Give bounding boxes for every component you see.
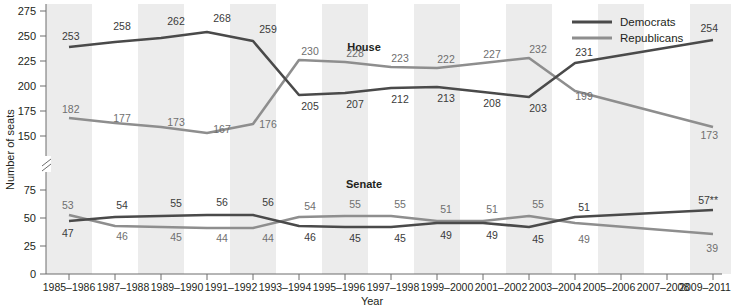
band-6 xyxy=(598,4,644,274)
house-rep-label-12: 173 xyxy=(700,129,718,141)
senate-rep-label-5: 54 xyxy=(304,200,316,212)
house-dem-label-0: 253 xyxy=(62,30,80,42)
house-rep-label-5: 230 xyxy=(301,45,319,57)
xtick-label-7: 1999–2000 xyxy=(421,281,474,293)
senate-rep-label-12: 39 xyxy=(706,242,718,254)
ytick-label-200: 200 xyxy=(18,80,36,92)
senate-dem-label-3: 56 xyxy=(216,196,228,208)
xtick-label-12: 2009–2011 xyxy=(679,281,731,293)
y-tick-labels: 275 250 225 200 175 150 75 50 25 0 xyxy=(18,5,36,280)
background-bands xyxy=(46,4,731,274)
house-rep-label-1: 177 xyxy=(113,112,131,124)
house-dem-label-3: 268 xyxy=(213,12,231,24)
seats-line-chart: 275 250 225 200 175 150 75 50 25 0 Numbe… xyxy=(0,0,731,307)
ytick-label-25: 25 xyxy=(24,240,36,252)
house-rep-label-4: 176 xyxy=(259,118,277,130)
senate-rep-label-7: 55 xyxy=(394,198,406,210)
senate-rep-label-10: 55 xyxy=(532,198,544,210)
senate-dem-label-1: 54 xyxy=(116,199,128,211)
senate-rep-label-11: 49 xyxy=(578,233,590,245)
senate-dem-label-6: 45 xyxy=(349,232,361,244)
house-rep-label-9: 227 xyxy=(483,48,501,60)
senate-rep-label-1: 46 xyxy=(116,230,128,242)
senate-dem-label-9: 49 xyxy=(486,229,498,241)
senate-dem-label-12: 57** xyxy=(698,194,718,206)
xtick-label-4: 1993–1994 xyxy=(259,281,312,293)
senate-rep-label-4: 44 xyxy=(262,232,274,244)
house-rep-label-8: 222 xyxy=(437,53,455,65)
xtick-label-2: 1989–1990 xyxy=(151,281,204,293)
senate-rep-label-3: 44 xyxy=(216,232,228,244)
house-dem-label-7: 212 xyxy=(391,93,409,105)
house-rep-label-6: 228 xyxy=(346,47,364,59)
senate-rep-label-0: 53 xyxy=(62,199,74,211)
senate-dem-label-7: 45 xyxy=(394,232,406,244)
house-dem-label-8: 213 xyxy=(437,92,455,104)
house-rep-label-11: 199 xyxy=(575,90,593,102)
house-dem-label-10: 203 xyxy=(529,102,547,114)
xtick-label-5: 1995–1996 xyxy=(313,281,366,293)
senate-rep-label-6: 55 xyxy=(349,198,361,210)
legend-label-democrats: Democrats xyxy=(620,16,676,28)
ytick-label-75: 75 xyxy=(24,184,36,196)
xtick-label-1: 1987–1988 xyxy=(97,281,150,293)
band-4 xyxy=(414,4,460,274)
house-dem-label-9: 208 xyxy=(483,97,501,109)
senate-dem-label-0: 47 xyxy=(62,227,74,239)
senate-rep-label-9: 51 xyxy=(486,203,498,215)
senate-rep-label-2: 45 xyxy=(170,231,182,243)
axis-break-icon xyxy=(42,156,51,172)
legend-label-republicans: Republicans xyxy=(620,32,684,44)
house-dem-label-2: 262 xyxy=(167,15,185,27)
senate-dem-label-5: 46 xyxy=(304,231,316,243)
xtick-label-0: 1985–1986 xyxy=(43,281,96,293)
ytick-label-250: 250 xyxy=(18,30,36,42)
senate-dem-label-4: 56 xyxy=(262,196,274,208)
xtick-label-10: 2005–2006 xyxy=(583,281,636,293)
house-dem-label-6: 207 xyxy=(346,98,364,110)
xtick-label-9: 2003–2004 xyxy=(529,281,582,293)
ytick-label-175: 175 xyxy=(18,105,36,117)
xtick-label-8: 2001–2002 xyxy=(475,281,528,293)
x-axis-title: Year xyxy=(361,295,384,307)
ytick-label-50: 50 xyxy=(24,212,36,224)
senate-dem-label-11: 51 xyxy=(578,201,590,213)
ytick-label-150: 150 xyxy=(18,130,36,142)
chart-container: 275 250 225 200 175 150 75 50 25 0 Numbe… xyxy=(0,0,731,307)
x-tick-labels: 1985–1986 1987–1988 1989–1990 1991–1992 … xyxy=(43,281,731,293)
house-rep-label-10: 232 xyxy=(529,43,547,55)
ytick-label-225: 225 xyxy=(18,55,36,67)
senate-dem-label-10: 45 xyxy=(532,233,544,245)
xtick-label-6: 1997–1998 xyxy=(367,281,420,293)
house-dem-label-11: 231 xyxy=(575,46,593,58)
house-dem-label-5: 205 xyxy=(301,100,319,112)
house-dem-label-1: 258 xyxy=(113,20,131,32)
senate-dem-label-8: 49 xyxy=(440,229,452,241)
house-rep-label-3: 167 xyxy=(213,123,231,135)
senate-rep-label-8: 51 xyxy=(440,203,452,215)
senate-dem-label-2: 55 xyxy=(170,197,182,209)
house-rep-label-2: 173 xyxy=(167,116,185,128)
house-dem-label-12: 254 xyxy=(700,22,718,34)
house-rep-label-7: 223 xyxy=(391,52,409,64)
house-dem-label-4: 259 xyxy=(259,23,277,35)
ytick-label-0: 0 xyxy=(30,268,36,280)
y-axis-title: Number of seats xyxy=(4,109,16,190)
senate-panel-label: Senate xyxy=(346,178,382,190)
house-rep-label-0: 182 xyxy=(62,103,80,115)
xtick-label-3: 1991–1992 xyxy=(205,281,258,293)
ytick-label-275: 275 xyxy=(18,5,36,17)
